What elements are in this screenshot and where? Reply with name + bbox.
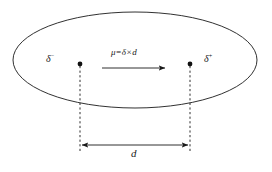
delta-positive-sign: + [209,52,213,59]
dipole-formula-label: μ=δ×d [111,48,137,57]
negative-charge-label: δ− [46,54,54,64]
distance-label: d [131,148,137,159]
dipole-moment-figure: δ− δ+ μ=δ×d d [0,0,272,172]
negative-charge-dot [78,62,83,67]
positive-charge-label: δ+ [204,54,212,64]
delta-negative-sign: − [51,52,55,59]
positive-charge-dot [188,62,193,67]
